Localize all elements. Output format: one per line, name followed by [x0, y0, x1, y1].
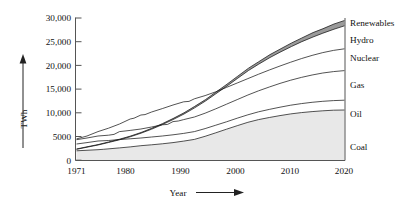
y-axis-title-group: TWh [19, 54, 29, 148]
series-label-gas: Gas [350, 80, 365, 90]
chart-figure: 30,000 25,000 20,000 15,000 10,000 5000 … [0, 0, 420, 210]
x-tick-label-1971: 1971 [67, 166, 86, 176]
series-label-group: Renewables Hydro Nuclear Gas Oil Coal [350, 18, 395, 153]
series-label-oil: Oil [350, 109, 362, 119]
stacked-area-chart: 30,000 25,000 20,000 15,000 10,000 5000 … [0, 0, 420, 210]
x-axis-title-group: Year [170, 188, 244, 198]
x-tick-label-2000: 2000 [226, 166, 245, 176]
x-axis-arrow-head-icon [234, 189, 244, 196]
x-axis: 1971 1980 1990 2000 2010 2020 [67, 161, 353, 176]
y-tick-label-0: 0 [66, 156, 71, 166]
x-tick-label-2010: 2010 [281, 166, 300, 176]
x-tick-label-1990: 1990 [171, 166, 190, 176]
y-tick-label-10000: 10,000 [46, 108, 72, 118]
x-axis-title: Year [170, 188, 187, 198]
y-axis: 30,000 25,000 20,000 15,000 10,000 5000 … [46, 13, 82, 165]
y-tick-label-5000: 5000 [53, 132, 72, 142]
y-tick-label-15000: 15,000 [46, 84, 72, 94]
area-coal [77, 110, 345, 161]
series-label-coal: Coal [350, 142, 368, 152]
x-tick-label-1980: 1980 [116, 166, 135, 176]
y-tick-label-30000: 30,000 [46, 13, 72, 23]
y-tick-label-25000: 25,000 [46, 37, 72, 47]
x-tick-label-2020: 2020 [335, 166, 354, 176]
series-label-nuclear: Nuclear [350, 53, 379, 63]
y-axis-arrow-head-icon [20, 54, 27, 64]
series-label-renewables: Renewables [350, 18, 395, 28]
y-axis-title: TWh [19, 109, 29, 128]
y-tick-label-20000: 20,000 [46, 61, 72, 71]
series-label-hydro: Hydro [350, 35, 374, 45]
